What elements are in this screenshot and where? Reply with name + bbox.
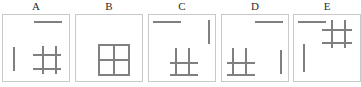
panel-label-e: E <box>293 0 361 12</box>
lattice-v-1 <box>55 46 57 74</box>
panel-d-horizontal-bar <box>255 21 283 23</box>
lattice-v-0 <box>232 48 234 76</box>
panel-e-vertical-bar <box>303 44 305 72</box>
grid-box-mid-v <box>113 44 115 76</box>
panel-label-b: B <box>75 0 143 12</box>
panel-e-lattice <box>322 20 352 48</box>
lattice-v-1 <box>245 48 247 76</box>
panel-b-grid-box <box>98 44 130 76</box>
panel-c-lattice <box>170 48 198 76</box>
panel-d-vertical-bar <box>280 50 282 74</box>
lattice-h-0 <box>322 29 352 31</box>
lattice-v-0 <box>42 46 44 74</box>
panel-label-c: C <box>148 0 216 12</box>
lattice-v-1 <box>344 20 346 48</box>
panel-strip: ABCDE <box>0 0 361 87</box>
panel-label-a: A <box>2 0 70 12</box>
panel-c-vertical-bar <box>208 20 210 44</box>
lattice-v-1 <box>188 48 190 76</box>
panel-a-lattice <box>33 46 61 74</box>
lattice-h-1 <box>322 42 352 44</box>
lattice-v-0 <box>331 20 333 48</box>
panel-a-horizontal-bar <box>34 21 62 23</box>
lattice-v-0 <box>175 48 177 76</box>
panel-d-lattice <box>227 48 255 76</box>
panel-c-horizontal-bar <box>153 21 181 23</box>
panel-label-d: D <box>221 0 289 12</box>
panel-a-vertical-bar <box>13 47 15 71</box>
